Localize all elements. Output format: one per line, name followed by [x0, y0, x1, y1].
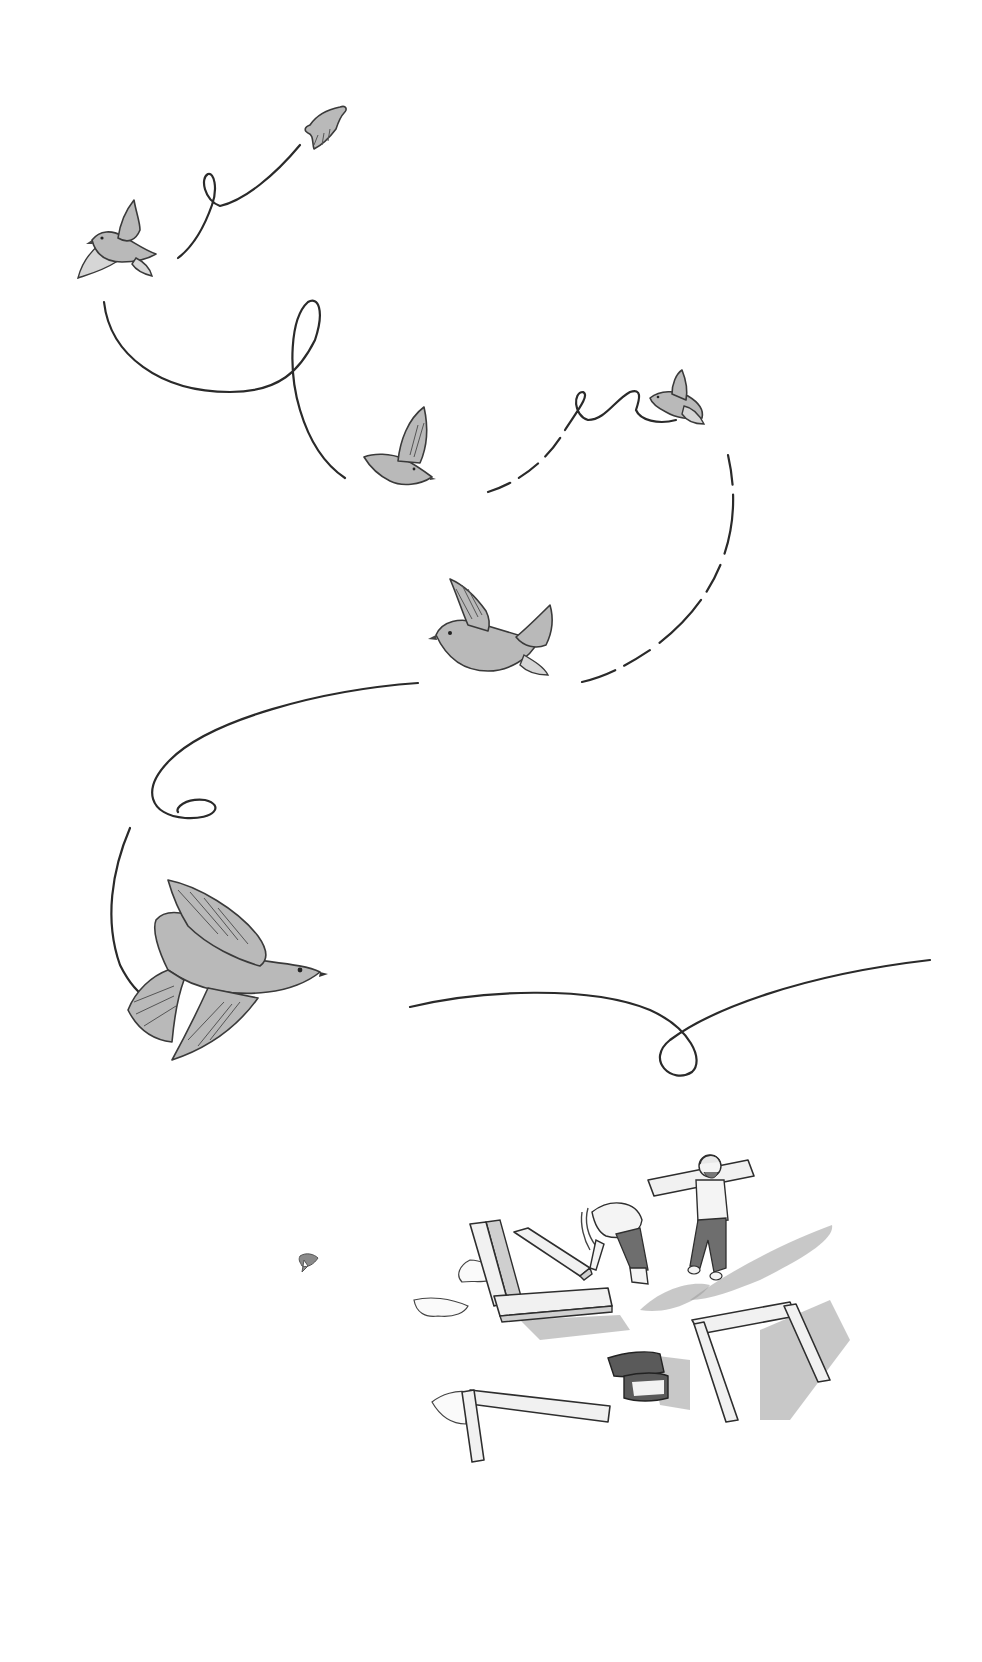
construction-scene	[414, 1155, 850, 1462]
cloth-2	[414, 1298, 468, 1316]
flight-path-4	[582, 455, 733, 682]
stone-beam-lower	[462, 1390, 610, 1462]
bird-2	[78, 200, 156, 278]
bird-3	[364, 407, 436, 484]
flight-path-1	[178, 145, 300, 258]
sacks	[608, 1352, 668, 1401]
bird-1	[305, 106, 346, 149]
bird-7	[299, 1254, 318, 1272]
illustration	[0, 0, 982, 1662]
bird-5	[428, 579, 552, 675]
flight-path-3	[488, 430, 565, 492]
flight-path-2	[104, 301, 345, 478]
stone-beam-angled	[514, 1228, 592, 1280]
worker-carrying	[648, 1155, 754, 1280]
bird-4	[650, 370, 704, 424]
flight-path-6	[111, 828, 150, 1000]
flight-path-7	[410, 960, 930, 1076]
bird-6	[128, 880, 328, 1060]
flight-path-5	[152, 683, 418, 818]
